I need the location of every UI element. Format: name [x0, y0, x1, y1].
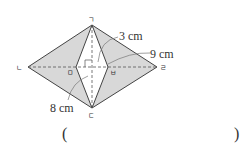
measure-label-9cm: 9 cm — [150, 47, 174, 61]
answer-close-paren: ) — [234, 125, 239, 143]
rhombus-diagram: ㄱ ㄴ ㄷ ㄹ ㅁ ㅂ 3 cm 9 cm 8 cm — [0, 0, 242, 151]
vertex-label-left: ㄴ — [16, 64, 22, 71]
measure-label-3cm: 3 cm — [119, 29, 143, 43]
measure-label-8cm: 8 cm — [50, 101, 74, 115]
vertex-label-inner-left: ㅁ — [67, 69, 73, 76]
vertex-label-right: ㄹ — [160, 64, 166, 71]
answer-open-paren: ( — [62, 125, 67, 143]
vertex-label-top: ㄱ — [88, 16, 94, 23]
vertex-label-inner-right: ㅂ — [110, 69, 116, 76]
vertex-label-bottom: ㄷ — [88, 112, 94, 119]
